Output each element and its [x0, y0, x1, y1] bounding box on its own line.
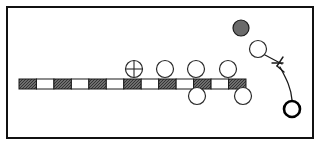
open-circle-above-3-group [220, 61, 237, 78]
bar-segment-2-dark [54, 79, 71, 89]
schematic-figure [0, 0, 322, 145]
open-circle-upper-right [250, 41, 267, 58]
gray-filled-circle [233, 20, 249, 36]
figure-canvas [0, 0, 322, 145]
open-circle-above-2-group [188, 61, 205, 78]
bar-segment-1-light [36, 79, 53, 89]
open-circle-above-3 [220, 61, 237, 78]
crossed-circle-marker-group [126, 61, 143, 78]
open-circle-above-1 [157, 61, 174, 78]
open-circle-upper-right-group [250, 41, 267, 58]
thick-ring-circle [284, 101, 300, 117]
open-circle-below-1 [189, 88, 206, 105]
bar-segment-5-light [106, 79, 123, 89]
bar-segment-8-dark [159, 79, 176, 89]
thick-ring-circle-group [284, 101, 300, 117]
open-circle-below-2-group [235, 88, 252, 105]
bar-segment-4-dark [89, 79, 106, 89]
bar-segment-6-dark [124, 79, 141, 89]
bar-segment-11-light [211, 79, 228, 89]
bar-segment-0-dark [19, 79, 36, 89]
bar-segment-9-light [176, 79, 193, 89]
open-circle-below-2 [235, 88, 252, 105]
open-circle-above-1-group [157, 61, 174, 78]
bar-segment-3-light [71, 79, 88, 89]
bar-segment-7-light [141, 79, 158, 89]
open-circle-below-1-group [189, 88, 206, 105]
gray-filled-circle-group [233, 20, 249, 36]
segmented-bar [19, 79, 246, 89]
open-circle-above-2 [188, 61, 205, 78]
